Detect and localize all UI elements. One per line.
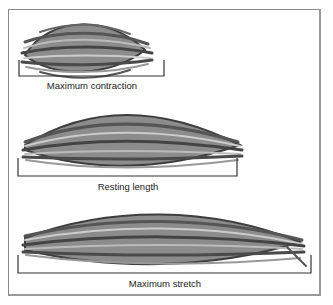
label-resting-length: Resting length: [18, 181, 238, 192]
label-max-contraction: Maximum contraction: [19, 80, 165, 91]
panel-max-contraction: Maximum contraction: [0, 0, 333, 100]
panel-resting-length: Resting length: [0, 100, 333, 200]
panel-max-stretch: Maximum stretch: [0, 200, 333, 300]
label-max-stretch: Maximum stretch: [18, 278, 312, 289]
